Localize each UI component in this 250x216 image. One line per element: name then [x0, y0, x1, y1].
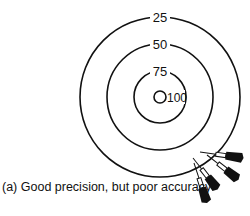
- ring-label-75: 75: [153, 64, 167, 79]
- dart-1: [199, 147, 244, 163]
- ring-label-25: 25: [153, 10, 167, 25]
- ring-label-100: 100: [167, 91, 187, 105]
- ring-100: [154, 91, 166, 103]
- ring-label-50: 50: [153, 37, 167, 52]
- figure-caption: (a) Good precision, but poor accuracy: [2, 180, 211, 194]
- ring-50: [107, 44, 213, 150]
